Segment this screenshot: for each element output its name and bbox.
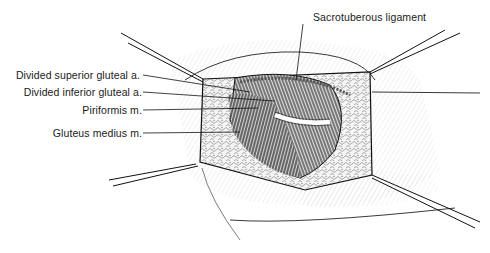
- label-gluteus-medius-muscle: Gluteus medius m.: [53, 127, 142, 139]
- label-divided-superior-gluteal-artery: Divided superior gluteal a.: [16, 69, 140, 81]
- label-divided-inferior-gluteal-artery: Divided inferior gluteal a.: [24, 86, 142, 98]
- label-sacrotuberous-ligament: Sacrotuberous ligament: [313, 11, 426, 23]
- label-piriformis-muscle: Piriformis m.: [82, 104, 142, 116]
